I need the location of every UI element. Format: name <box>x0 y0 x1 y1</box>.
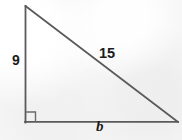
hypotenuse-line <box>26 6 179 122</box>
horizontal-leg-label: b <box>96 119 104 134</box>
triangle-drawing <box>0 0 182 140</box>
vertical-leg-label: 9 <box>12 53 20 67</box>
hypotenuse-label: 15 <box>99 46 115 61</box>
right-angle-marker-icon <box>26 112 36 122</box>
right-triangle-figure: 9 15 b <box>0 0 182 140</box>
